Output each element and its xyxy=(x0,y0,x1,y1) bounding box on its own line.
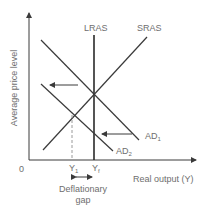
ad1-label: AD1 xyxy=(145,131,162,142)
ad1-curve xyxy=(41,40,139,140)
y1-tick-label: Y1 xyxy=(69,163,79,174)
sras-label: SRAS xyxy=(137,23,162,33)
ad-as-diagram: Average price level Real output (Y) 0 LR… xyxy=(0,0,205,216)
origin-label: 0 xyxy=(19,164,24,174)
gap-label-line2: gap xyxy=(75,195,90,205)
y-axis-label: Average price level xyxy=(9,50,19,126)
lras-label: LRAS xyxy=(84,23,108,33)
x-axis-label: Real output (Y) xyxy=(133,174,194,184)
yf-tick-label: Yf xyxy=(92,163,100,174)
ad2-label: AD2 xyxy=(116,146,133,157)
gap-label-line1: Deflationary xyxy=(59,184,108,194)
